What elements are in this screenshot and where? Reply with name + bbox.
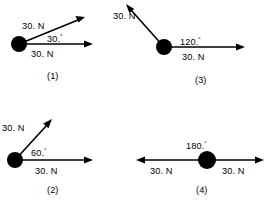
panel-2-angled-force-label: 30. N — [2, 124, 24, 133]
panel-3-horizontal-force-label: 30. N — [182, 53, 204, 62]
panel-4-right-force-label: 30. N — [222, 167, 244, 176]
force-diagram-figure: 30. N 30.° 30. N (1) 30. N 120.° 30. N (… — [0, 0, 267, 200]
panel-3-vectors — [126, 4, 245, 55]
panel-4-pivot-dot — [198, 151, 216, 169]
panel-1-caption: (1) — [47, 72, 59, 81]
panel-3-horizontal-arrowhead — [236, 44, 245, 51]
panel-1-angled-arrowhead — [75, 16, 85, 22]
panel-1-degree-icon: ° — [60, 33, 63, 39]
panel-1-angled-force-label: 30. N — [22, 22, 44, 31]
panel-1-pivot-dot — [11, 36, 27, 52]
panel-1-horizontal-force-label: 30. N — [31, 50, 53, 59]
panel-3-angle-label: 120.° — [180, 36, 201, 47]
panel-2-horizontal-force-label: 30. N — [35, 167, 57, 176]
panel-3-caption: (3) — [195, 76, 207, 85]
panel-4-caption: (4) — [196, 186, 208, 195]
panel-3-angled-force-label: 30. N — [113, 12, 135, 21]
panel-1-angle-label: 30.° — [47, 33, 63, 44]
panel-1-horizontal-arrowhead — [84, 41, 93, 48]
panel-1-angle-value: 30. — [47, 34, 60, 44]
panel-4-left-force-label: 30. N — [150, 167, 172, 176]
panel-3-degree-icon: ° — [198, 36, 201, 42]
panel-4-degree-icon: ° — [204, 140, 207, 146]
panel-2-horizontal-arrowhead — [84, 157, 93, 164]
panel-2-angle-label: 60.° — [31, 147, 47, 158]
panel-4-left-arrowhead — [136, 157, 145, 164]
panel-2-angle-value: 60. — [31, 148, 44, 158]
panel-4-angle-label: 180.° — [186, 140, 207, 151]
panel-4-angle-value: 180. — [186, 141, 204, 151]
panel-4-right-arrowhead — [255, 157, 264, 164]
panel-2-caption: (2) — [47, 186, 59, 195]
panel-3-angle-value: 120. — [180, 37, 198, 47]
panel-3-pivot-dot — [156, 39, 172, 55]
panel-2-degree-icon: ° — [44, 147, 47, 153]
panel-2-pivot-dot — [7, 152, 23, 168]
